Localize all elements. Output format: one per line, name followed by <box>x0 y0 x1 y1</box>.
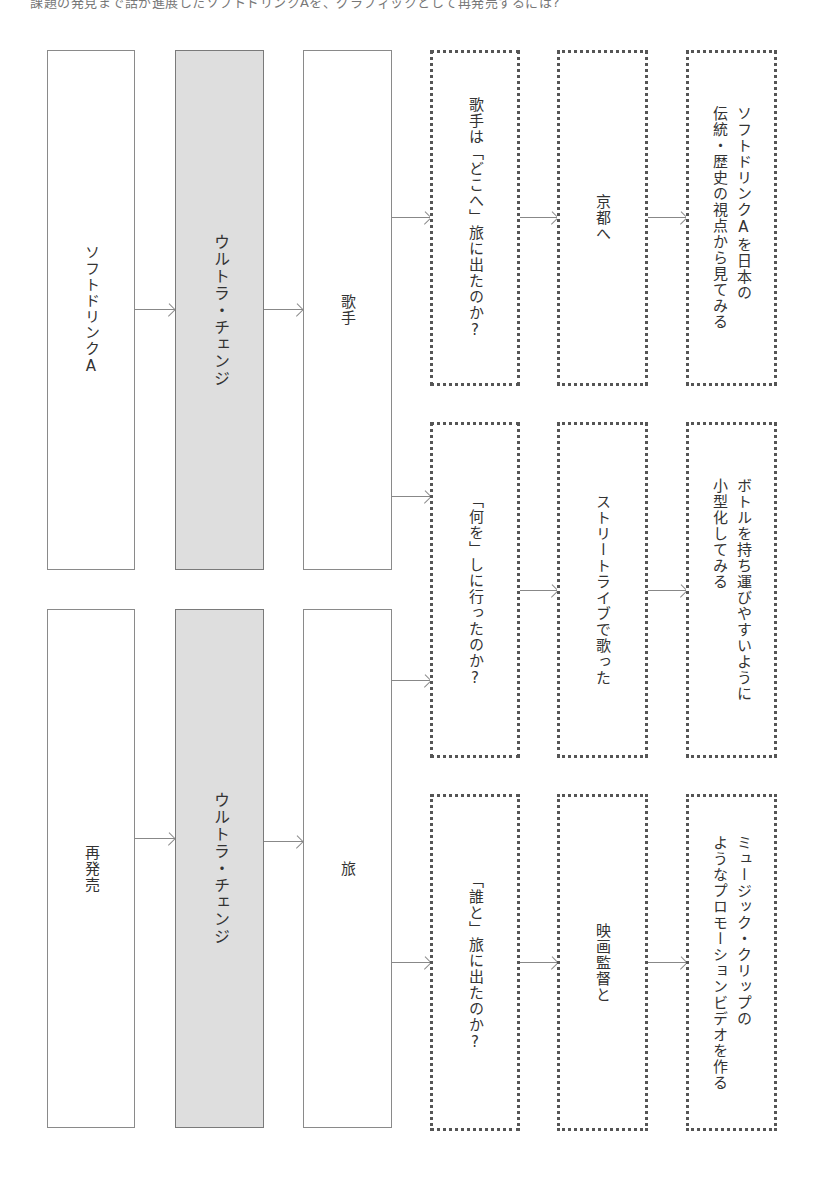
arrow-icon <box>264 309 303 310</box>
answer-box: ストリートライブで歌った <box>557 422 648 758</box>
idea-label: ソフトドリンクAを日本の 伝統・歴史の視点から見てみる <box>708 106 756 330</box>
question-label: 「何を」しに行ったのか? <box>463 493 487 688</box>
answer-label: 映画監督と <box>591 923 615 1003</box>
method-label: ウルトラ・チェンジ <box>208 234 232 387</box>
arrow-icon <box>392 680 431 681</box>
source-label: 再発売 <box>79 845 103 893</box>
answer-box: 映画監督と <box>557 794 648 1131</box>
idea-box: ミュージック・クリップの ようなプロモーションビデオを作る <box>686 794 777 1131</box>
answer-label: 京都へ <box>591 194 615 242</box>
theme-label: 歌手 <box>336 294 360 326</box>
method-box-ultra-change: ウルトラ・チェンジ <box>175 609 264 1128</box>
question-label: 歌手は「どこへ」旅に出たのか? <box>463 97 487 340</box>
arrow-icon <box>264 841 303 842</box>
answer-box: 京都へ <box>557 50 648 386</box>
arrow-icon <box>520 962 558 963</box>
question-box: 「何を」しに行ったのか? <box>430 422 520 758</box>
question-box: 「誰と」旅に出たのか? <box>430 794 520 1131</box>
arrow-icon <box>392 217 431 218</box>
arrow-icon <box>392 962 431 963</box>
idea-box: ソフトドリンクAを日本の 伝統・歴史の視点から見てみる <box>686 50 777 386</box>
theme-box-singer: 歌手 <box>303 50 392 570</box>
idea-label: ミュージック・クリップの ようなプロモーションビデオを作る <box>708 835 756 1091</box>
source-label: ソフトドリンクA <box>79 245 103 376</box>
arrow-icon <box>520 590 558 591</box>
method-label: ウルトラ・チェンジ <box>208 792 232 945</box>
source-box-soft-drink: ソフトドリンクA <box>47 50 135 570</box>
arrow-icon <box>135 309 175 310</box>
source-box-relaunch: 再発売 <box>47 609 135 1128</box>
arrow-icon <box>392 496 431 497</box>
arrow-icon <box>648 590 687 591</box>
arrow-icon <box>135 838 175 839</box>
question-label: 「誰と」旅に出たのか? <box>463 873 487 1052</box>
answer-label: ストリートライブで歌った <box>591 494 615 686</box>
question-box: 歌手は「どこへ」旅に出たのか? <box>430 50 520 386</box>
page-caption: 課題の発見まで話が進展したソフトドリンクAを、グラフィックとして再発売するには? <box>30 0 790 11</box>
method-box-ultra-change: ウルトラ・チェンジ <box>175 50 264 570</box>
theme-box-travel: 旅 <box>303 609 392 1128</box>
idea-label: ボトルを持ち運びやすいように 小型化してみる <box>708 478 756 702</box>
theme-label: 旅 <box>336 861 360 877</box>
idea-box: ボトルを持ち運びやすいように 小型化してみる <box>686 422 777 758</box>
arrow-icon <box>648 962 687 963</box>
arrow-icon <box>520 217 558 218</box>
arrow-icon <box>648 217 687 218</box>
